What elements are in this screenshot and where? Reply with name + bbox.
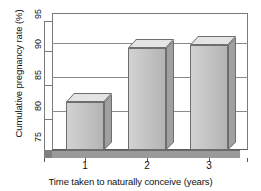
bar-front-face-3: [190, 45, 228, 150]
y-axis-title: Cumulative pregnancy rate (%): [13, 0, 24, 149]
bar-front-face-2: [128, 48, 166, 150]
x-axis-tick-start: [44, 158, 45, 162]
bar-front-face-1: [66, 102, 104, 150]
y-axis-tick-95: [44, 21, 52, 22]
x-axis-tick-end: [247, 158, 248, 162]
bar-category-3[interactable]: [190, 36, 228, 150]
x-tick-label-3: 3: [199, 160, 219, 171]
y-tick-label-85: 85: [33, 64, 43, 86]
chart-floor-left-corner: [44, 150, 52, 158]
y-tick-label-80: 80: [33, 95, 43, 117]
x-tick-label-1: 1: [75, 160, 95, 171]
bar-chart: Cumulative pregnancy rate (%) 95 90 85 8…: [0, 0, 261, 191]
y-axis-tick-85: [44, 85, 52, 86]
bar-category-1[interactable]: [66, 93, 104, 150]
y-tick-label-75: 75: [33, 126, 43, 148]
plot-area: [52, 13, 248, 150]
x-tick-label-2: 2: [137, 160, 157, 171]
y-axis-tick-90: [44, 51, 52, 52]
bar-category-2[interactable]: [128, 39, 166, 150]
chart-floor: [44, 150, 240, 158]
y-tick-label-95: 95: [33, 3, 43, 25]
y-tick-label-90: 90: [33, 33, 43, 55]
bar-side-face-2: [166, 40, 174, 150]
bar-side-face-3: [228, 37, 236, 150]
y-axis-tick-80: [44, 119, 52, 120]
chart-left-wall: [44, 21, 52, 158]
bar-side-face-1: [104, 94, 112, 150]
x-axis-title: Time taken to naturally conceive (years): [0, 176, 261, 187]
